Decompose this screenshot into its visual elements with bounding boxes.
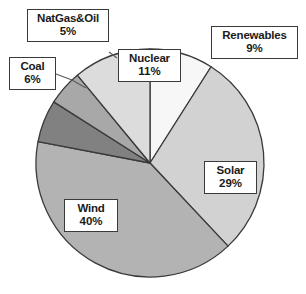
callout-percent-wind: 40% xyxy=(69,215,113,228)
slice-callout-nuclear[interactable]: Nuclear 11% xyxy=(118,49,181,82)
callout-percent-nuclear: 11% xyxy=(123,65,176,78)
callout-label-natgas: NatGas&Oil xyxy=(32,12,104,25)
slice-callout-wind[interactable]: Wind 40% xyxy=(64,199,118,232)
pie-chart: NatGas&Oil 5% Coal 6% Nuclear 11% Renewa… xyxy=(0,0,306,294)
callout-label-nuclear: Nuclear xyxy=(123,52,176,65)
callout-label-renewables: Renewables xyxy=(216,29,293,42)
callout-percent-natgas: 5% xyxy=(32,25,104,38)
callout-label-solar: Solar xyxy=(209,164,252,177)
callout-percent-solar: 29% xyxy=(209,177,252,190)
slice-callout-solar[interactable]: Solar 29% xyxy=(204,161,257,194)
callout-label-wind: Wind xyxy=(69,202,113,215)
slice-callout-natgas[interactable]: NatGas&Oil 5% xyxy=(27,9,109,42)
slice-callout-renewables[interactable]: Renewables 9% xyxy=(211,26,298,59)
slice-callout-coal[interactable]: Coal 6% xyxy=(9,57,56,90)
callout-percent-coal: 6% xyxy=(14,73,51,86)
callout-percent-renewables: 9% xyxy=(216,42,293,55)
callout-label-coal: Coal xyxy=(14,60,51,73)
